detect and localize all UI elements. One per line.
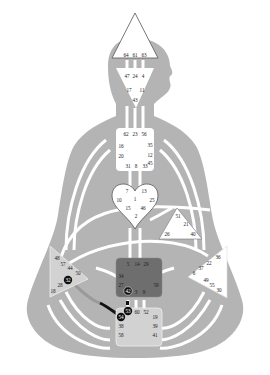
gate-60: 60 bbox=[134, 309, 140, 315]
gate-15: 15 bbox=[125, 205, 131, 211]
gate-34: 34 bbox=[118, 273, 124, 279]
gate-64: 64 bbox=[123, 52, 129, 58]
gate-8: 8 bbox=[135, 163, 138, 169]
gate-52: 52 bbox=[143, 309, 149, 315]
gate-45: 45 bbox=[147, 160, 153, 166]
gate-58: 58 bbox=[118, 332, 124, 338]
gate-61: 61 bbox=[132, 52, 138, 58]
gate-37: 37 bbox=[198, 265, 204, 271]
gate-16: 16 bbox=[118, 143, 124, 149]
gate-54: 54 bbox=[118, 314, 124, 320]
gate-22: 22 bbox=[206, 260, 212, 266]
gate-47: 47 bbox=[124, 73, 130, 79]
gate-44: 44 bbox=[67, 265, 73, 271]
gate-31: 31 bbox=[125, 163, 131, 169]
gate-55: 55 bbox=[209, 282, 215, 288]
gate-30: 30 bbox=[216, 287, 222, 293]
gate-39: 39 bbox=[152, 323, 158, 329]
gate-40: 40 bbox=[190, 231, 196, 237]
center-head: 64 61 63 bbox=[112, 13, 158, 58]
gate-21: 21 bbox=[183, 221, 189, 227]
gate-51: 51 bbox=[175, 213, 181, 219]
gate-20: 20 bbox=[118, 153, 124, 159]
gate-62: 62 bbox=[123, 131, 129, 137]
center-sacral: 5 14 29 34 27 59 42 3 9 bbox=[116, 258, 162, 297]
gate-35: 35 bbox=[147, 142, 153, 148]
gate-6: 6 bbox=[193, 270, 196, 276]
gate-48: 48 bbox=[54, 255, 60, 261]
gate-29: 29 bbox=[143, 261, 149, 267]
gate-38: 38 bbox=[118, 323, 124, 329]
gate-7: 7 bbox=[126, 188, 129, 194]
gate-27: 27 bbox=[118, 282, 124, 288]
gate-57: 57 bbox=[60, 261, 66, 267]
gate-28: 28 bbox=[57, 282, 63, 288]
gate-63: 63 bbox=[141, 52, 147, 58]
gate-3: 3 bbox=[135, 289, 138, 295]
gate-53: 53 bbox=[125, 308, 131, 314]
gate-42: 42 bbox=[125, 288, 131, 294]
gate-13: 13 bbox=[141, 188, 147, 194]
gate-59: 59 bbox=[153, 282, 159, 288]
gate-32: 32 bbox=[65, 277, 71, 283]
gate-56: 56 bbox=[141, 131, 147, 137]
gate-49: 49 bbox=[203, 277, 209, 283]
gate-5: 5 bbox=[127, 261, 130, 267]
gate-25: 25 bbox=[149, 197, 155, 203]
gate-10: 10 bbox=[116, 197, 122, 203]
center-throat: 62 23 56 16 35 20 12 45 31 8 33 bbox=[116, 128, 154, 171]
gate-2: 2 bbox=[135, 213, 138, 219]
gate-12: 12 bbox=[147, 152, 153, 158]
gate-50: 50 bbox=[75, 270, 81, 276]
gate-26: 26 bbox=[164, 231, 170, 237]
gate-17: 17 bbox=[126, 87, 132, 93]
gate-33: 33 bbox=[142, 163, 148, 169]
gate-19: 19 bbox=[152, 314, 158, 320]
bodygraph: 64 61 63 47 24 4 17 11 43 62 23 56 16 35… bbox=[0, 0, 270, 375]
gate-1: 1 bbox=[134, 196, 137, 202]
gate-18: 18 bbox=[50, 288, 56, 294]
gate-9: 9 bbox=[143, 289, 146, 295]
gate-46: 46 bbox=[140, 205, 146, 211]
channel-marker bbox=[126, 301, 129, 305]
center-root: 53 60 52 54 38 58 19 39 41 bbox=[116, 307, 162, 346]
gate-11: 11 bbox=[140, 87, 145, 93]
gate-24: 24 bbox=[132, 73, 138, 79]
gate-23: 23 bbox=[132, 131, 138, 137]
gate-14: 14 bbox=[134, 261, 140, 267]
gate-36: 36 bbox=[215, 254, 221, 260]
gate-41: 41 bbox=[152, 332, 158, 338]
gate-4: 4 bbox=[142, 73, 145, 79]
gate-43: 43 bbox=[132, 97, 138, 103]
